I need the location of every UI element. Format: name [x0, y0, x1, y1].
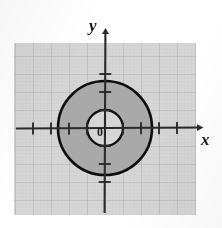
y-axis-line: [105, 33, 106, 213]
coordinate-plane-svg: [0, 0, 222, 228]
origin-label: 0: [97, 126, 103, 138]
x-axis-label: x: [201, 131, 210, 148]
x-axis-line: [16, 128, 198, 129]
y-axis-arrow: [102, 28, 109, 34]
math-figure-annulus: y x 0: [0, 0, 222, 228]
y-axis-label: y: [89, 17, 97, 34]
